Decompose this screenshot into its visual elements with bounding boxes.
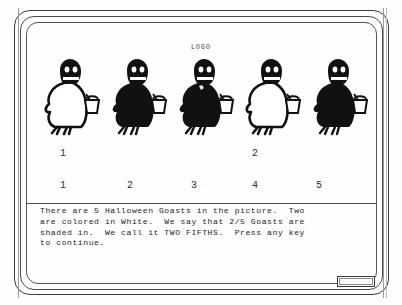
goast-figure-3 — [174, 56, 240, 136]
total-count-2: 2 — [120, 180, 140, 191]
goast-icon-shaded — [107, 56, 173, 136]
goast-icon-shaded — [174, 56, 240, 136]
lesson-screen: LOGO — [0, 0, 402, 305]
total-count-3: 3 — [184, 180, 204, 191]
total-count-row: 1 2 3 4 5 — [32, 180, 371, 194]
goast-figure-5 — [308, 56, 374, 136]
goast-icon-shaded — [308, 56, 374, 136]
panel-divider — [27, 203, 376, 204]
message-text: There are 5 Halloween Goasts in the pict… — [40, 206, 370, 249]
white-count-4: 2 — [245, 148, 265, 159]
right-rail — [383, 8, 384, 298]
total-count-4: 4 — [245, 180, 265, 191]
goast-icon-white — [40, 56, 106, 136]
right-rail-secondary — [386, 8, 387, 298]
white-count-1: 1 — [53, 148, 73, 159]
total-count-5: 5 — [309, 180, 329, 191]
goast-icon-white — [241, 56, 307, 136]
white-count-row: 1 2 — [32, 148, 371, 162]
goast-figure-1 — [40, 56, 106, 136]
picture-stage — [32, 56, 371, 136]
press-any-key-box[interactable] — [337, 276, 375, 287]
goast-figure-4 — [241, 56, 307, 136]
logo-text: LOGO — [0, 44, 402, 51]
press-any-key-box-inner — [339, 278, 373, 285]
total-count-1: 1 — [53, 180, 73, 191]
goast-figure-2 — [107, 56, 173, 136]
left-rail — [18, 8, 19, 298]
